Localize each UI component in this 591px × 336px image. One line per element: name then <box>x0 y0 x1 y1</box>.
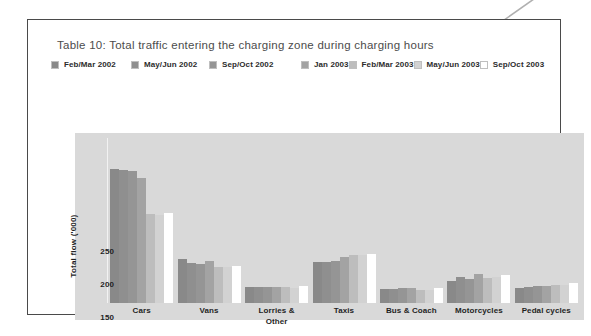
x-axis-tick-label: Taxis <box>310 305 377 316</box>
x-axis-tick-label-line: Vans <box>175 305 242 316</box>
bar <box>416 290 425 303</box>
bar <box>196 264 205 303</box>
chart-title: Table 10: Total traffic entering the cha… <box>57 39 434 51</box>
bar <box>380 289 389 303</box>
document-frame: Table 10: Total traffic entering the cha… <box>27 19 561 315</box>
bar <box>349 255 358 303</box>
legend-item: May/Jun 2002 <box>131 57 209 72</box>
bar <box>119 170 128 303</box>
bar <box>331 261 340 303</box>
bar <box>501 275 510 303</box>
bar <box>214 267 223 303</box>
bar <box>245 287 254 304</box>
y-axis-ticks: 050100150200250 <box>75 246 118 336</box>
bar <box>407 288 416 303</box>
bar <box>128 171 137 303</box>
bar <box>187 263 196 303</box>
legend-item: Feb/Mar 2002 <box>51 57 131 72</box>
bar <box>146 214 155 303</box>
legend-swatch-icon <box>414 61 422 69</box>
legend-label: Jan 2003 <box>314 60 349 69</box>
bar <box>474 274 483 303</box>
bar <box>358 255 367 303</box>
bar <box>569 283 578 303</box>
x-axis-tick-label: Pedal cycles <box>513 305 580 316</box>
bar <box>456 277 465 303</box>
bar <box>164 213 173 303</box>
bars-layer <box>108 138 580 303</box>
bar <box>178 259 187 303</box>
bar <box>137 178 146 303</box>
bar-group <box>245 138 308 303</box>
y-axis-tick-label: 150 <box>100 313 114 322</box>
plot-inner: CarsVansLorries &OtherTaxisBus & CoachMo… <box>75 133 584 320</box>
legend-swatch-icon <box>301 61 309 69</box>
bar <box>313 262 322 303</box>
bar-group <box>515 138 578 303</box>
y-axis-tick-label: 250 <box>100 247 114 256</box>
bar <box>290 288 299 303</box>
legend-label: Sep/Oct 2003 <box>493 60 544 69</box>
legend-swatch-icon <box>131 61 139 69</box>
bar <box>398 288 407 303</box>
legend-item: Jan 2003 <box>301 57 349 72</box>
bar <box>492 277 501 303</box>
y-axis-tick-label: 200 <box>100 280 114 289</box>
x-axis-tick-label-line: Taxis <box>310 305 377 316</box>
screenshot-page: Table 10: Total traffic entering the cha… <box>0 0 591 336</box>
legend-swatch-icon <box>349 61 357 69</box>
legend-item: Sep/Oct 2003 <box>480 57 544 72</box>
x-axis-tick-label-line: Cars <box>108 305 175 316</box>
x-axis-tick-label-line: Pedal cycles <box>513 305 580 316</box>
x-axis-tick-label: Vans <box>175 305 242 316</box>
x-axis-tick-label: Lorries &Other <box>243 305 310 327</box>
x-axis-tick-label: Cars <box>108 305 175 316</box>
bar <box>281 287 290 303</box>
legend-item: Feb/Mar 2003 <box>349 57 414 72</box>
bar <box>551 285 560 303</box>
x-axis-tick-label-line: Lorries & <box>243 305 310 316</box>
chart-plot-area: CarsVansLorries &OtherTaxisBus & CoachMo… <box>75 133 584 320</box>
bar <box>299 286 308 303</box>
bar-group <box>447 138 510 303</box>
x-axis-labels: CarsVansLorries &OtherTaxisBus & CoachMo… <box>108 305 580 336</box>
bar-group <box>313 138 376 303</box>
bar <box>425 290 434 303</box>
legend-swatch-icon <box>51 61 59 69</box>
bar <box>340 257 349 303</box>
y-axis-title: Total flow ('000) <box>69 191 78 301</box>
legend-label: Sep/Oct 2002 <box>222 60 273 69</box>
x-axis-tick-label: Bus & Coach <box>378 305 445 316</box>
x-axis-tick-label-line: Other <box>243 316 310 327</box>
bar <box>223 267 232 303</box>
legend-label: Feb/Mar 2002 <box>64 60 116 69</box>
legend-item: Sep/Oct 2002 <box>209 57 301 72</box>
bar <box>434 288 443 303</box>
legend-label: May/Jun 2002 <box>144 60 197 69</box>
x-axis-tick-label-line: Bus & Coach <box>378 305 445 316</box>
bar <box>560 285 569 303</box>
bar <box>205 261 214 303</box>
bar <box>515 288 524 303</box>
bar <box>272 287 281 304</box>
bar <box>465 279 474 303</box>
legend-swatch-icon <box>480 61 488 69</box>
bar <box>263 287 272 304</box>
bar <box>389 289 398 303</box>
legend-swatch-icon <box>209 61 217 69</box>
x-axis-tick-label-line: Motorcycles <box>445 305 512 316</box>
bar <box>483 278 492 303</box>
bar <box>533 286 542 303</box>
bar <box>524 287 533 304</box>
bar-group <box>380 138 443 303</box>
bar-group <box>110 138 173 303</box>
bar <box>254 287 263 304</box>
chart-legend: Feb/Mar 2002May/Jun 2002Sep/Oct 2002Jan … <box>51 57 471 72</box>
legend-item: May/Jun 2003 <box>414 57 480 72</box>
x-axis-tick-label: Motorcycles <box>445 305 512 316</box>
bar <box>155 215 164 303</box>
legend-label: Feb/Mar 2003 <box>362 60 414 69</box>
bar <box>322 262 331 303</box>
legend-label: May/Jun 2003 <box>427 60 480 69</box>
bar <box>232 266 241 303</box>
